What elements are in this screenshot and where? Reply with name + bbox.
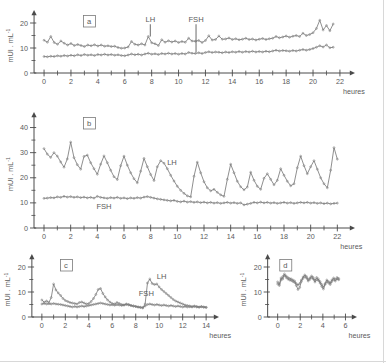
x-tick-label: 6 <box>123 77 127 86</box>
svg-text:mUI . mL-1: mUI . mL-1 <box>5 29 15 63</box>
panel-c: 01020mUI . mL-102468101214heurescLHFSH <box>0 250 250 363</box>
svg-text:d: d <box>283 261 287 270</box>
x-tick-label: 0 <box>40 321 44 330</box>
x-tick-label: 12 <box>200 232 208 241</box>
panel-b-y-axis: 010203040 <box>20 112 37 233</box>
x-tick-label: 2 <box>69 232 73 241</box>
y-tick-label: 0 <box>22 313 26 322</box>
x-tick-label: 0 <box>42 77 46 86</box>
y-tick-label: 20 <box>20 19 28 28</box>
x-tick-label: 22 <box>333 232 341 241</box>
figure-right-border <box>383 0 384 363</box>
panel-c-y-axis-title: mUI . mL-1 <box>3 273 13 307</box>
x-tick-label: 2 <box>298 321 302 330</box>
x-tick-label: 18 <box>280 232 288 241</box>
svg-text:mUI . mL-1: mUI . mL-1 <box>239 273 249 307</box>
y-tick-label: 40 <box>20 123 28 132</box>
x-tick-label: 4 <box>95 232 99 241</box>
x-tick-label: 10 <box>175 77 183 86</box>
x-tick-label: 20 <box>307 232 315 241</box>
x-tick-label: 20 <box>309 77 317 86</box>
x-tick-label: 6 <box>110 321 114 330</box>
panel-a-y-axis: 01020 <box>20 10 37 78</box>
x-tick-label: 0 <box>276 321 280 330</box>
svg-text:FSH: FSH <box>188 15 203 24</box>
series-fsh <box>43 44 334 58</box>
panel-b-plot: 010203040mUI . mL-10246810121416182022he… <box>0 108 386 250</box>
x-tick-label: 14 <box>202 321 210 330</box>
x-tick-label: 16 <box>255 77 263 86</box>
y-tick-label: 10 <box>18 288 26 297</box>
y-tick-label: 20 <box>20 173 28 182</box>
svg-text:FSH: FSH <box>139 289 154 298</box>
x-tick-label: 0 <box>42 232 46 241</box>
series-lh <box>43 141 338 198</box>
annotation-lh: LH <box>167 158 177 167</box>
svg-text:LH: LH <box>167 158 177 167</box>
panel-b-x-axis: 0246810121416182022heures <box>34 225 363 251</box>
panel-d-letter: d <box>280 260 292 272</box>
svg-text:mUI . mL-1: mUI . mL-1 <box>3 273 13 307</box>
x-tick-label: 8 <box>149 232 153 241</box>
y-tick-label: 10 <box>254 288 262 297</box>
y-tick-label: 10 <box>20 198 28 207</box>
annotation-fsh: FSH <box>139 289 154 298</box>
panel-d-y-axis: 01020 <box>254 254 271 322</box>
y-tick-label: 30 <box>20 148 28 157</box>
svg-text:b: b <box>87 119 91 128</box>
x-tick-label: 2 <box>63 321 67 330</box>
x-tick-label: 14 <box>227 232 235 241</box>
y-tick-label: 0 <box>24 224 28 233</box>
panel-d-x-axis: 0246heures <box>268 314 371 340</box>
x-tick-label: 14 <box>228 77 236 86</box>
y-tick-label: 10 <box>20 44 28 53</box>
hormone-pulsatility-figure: 01020mUI . mL-10246810121416182022heures… <box>0 0 386 363</box>
x-tick-label: 4 <box>321 321 325 330</box>
x-tick-label: 16 <box>253 232 261 241</box>
y-tick-label: 20 <box>18 263 26 272</box>
figure-bottom-border <box>0 361 386 362</box>
svg-text:a: a <box>87 17 92 26</box>
x-tick-label: 8 <box>134 321 138 330</box>
panel-a-letter: a <box>84 16 96 28</box>
x-tick-label: 18 <box>282 77 290 86</box>
panel-a-x-axis-title: heures <box>343 87 365 96</box>
panel-d-x-axis-title: heures <box>348 331 370 340</box>
annotation-fsh: FSH <box>188 15 203 53</box>
panel-d-plot: 01020mUI . mL-10246heuresd <box>250 250 386 363</box>
svg-text:LH: LH <box>145 15 155 24</box>
svg-text:FSH: FSH <box>96 202 111 211</box>
x-tick-label: 4 <box>87 321 91 330</box>
panel-d-y-axis-title: mUI . mL-1 <box>239 273 249 307</box>
panel-a: 01020mUI . mL-10246810121416182022heures… <box>0 0 386 108</box>
y-tick-label: 20 <box>254 263 262 272</box>
annotation-lh: LH <box>157 272 167 281</box>
svg-text:LH: LH <box>157 272 167 281</box>
panel-a-plot: 01020mUI . mL-10246810121416182022heures… <box>0 0 386 108</box>
svg-text:mUI . mL-1: mUI . mL-1 <box>5 157 15 191</box>
panel-d: 01020mUI . mL-10246heuresd <box>250 250 386 363</box>
x-tick-label: 22 <box>336 77 344 86</box>
x-tick-label: 10 <box>155 321 163 330</box>
panel-a-y-axis-title: mUI . mL-1 <box>5 29 15 63</box>
x-tick-label: 4 <box>96 77 100 86</box>
svg-text:c: c <box>64 261 68 270</box>
x-tick-label: 6 <box>343 321 347 330</box>
x-tick-label: 12 <box>179 321 187 330</box>
x-tick-label: 12 <box>201 77 209 86</box>
panel-b-y-axis-title: mUI . mL-1 <box>5 157 15 191</box>
x-tick-label: 2 <box>69 77 73 86</box>
panel-b-letter: b <box>84 118 96 130</box>
panel-c-x-axis: 02468101214heures <box>32 314 232 340</box>
y-tick-label: 0 <box>24 69 28 78</box>
panel-c-x-axis-title: heures <box>209 331 231 340</box>
x-tick-label: 6 <box>122 232 126 241</box>
annotation-lh: LH <box>145 15 155 37</box>
panel-c-plot: 01020mUI . mL-102468101214heurescLHFSH <box>0 250 250 363</box>
x-tick-label: 10 <box>173 232 181 241</box>
panel-c-letter: c <box>60 260 72 272</box>
y-tick-label: 0 <box>258 313 262 322</box>
series-trace-2 <box>277 275 340 288</box>
panel-c-y-axis: 01020 <box>18 254 35 322</box>
panel-b: 010203040mUI . mL-10246810121416182022he… <box>0 108 386 250</box>
